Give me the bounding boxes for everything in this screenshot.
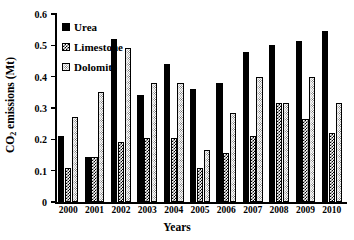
legend-label: Dolomite	[74, 61, 117, 73]
bar-limestone-2002[interactable]	[118, 142, 124, 202]
bar-limestone-2004[interactable]	[171, 138, 177, 202]
legend-item-dolomite[interactable]: Dolomite	[62, 57, 172, 76]
legend-item-urea[interactable]: Urea	[62, 17, 172, 36]
legend-swatch-dolomite-icon	[62, 63, 70, 71]
bar-dolomite-2005[interactable]	[204, 150, 210, 202]
bar-urea-2009[interactable]	[296, 41, 302, 202]
bar-limestone-2000[interactable]	[65, 168, 71, 202]
y-axis-tick-label: 0.2	[35, 134, 48, 145]
y-axis-title: CO2 emissions (Mt)	[0, 0, 20, 210]
bar-dolomite-2003[interactable]	[151, 83, 157, 202]
bar-limestone-2006[interactable]	[223, 153, 229, 202]
x-axis-tick-label: 2009	[296, 205, 315, 215]
bar-urea-2003[interactable]	[137, 95, 143, 202]
bar-dolomite-2000[interactable]	[72, 117, 78, 202]
legend-swatch-urea-icon	[62, 23, 70, 31]
bar-dolomite-2008[interactable]	[283, 103, 289, 202]
legend-swatch-limestone-icon	[62, 43, 70, 51]
chart-legend: UreaLimestoneDolomite	[62, 17, 172, 77]
y-axis-title-suffix: emissions (Mt)	[4, 57, 16, 132]
bar-urea-2001[interactable]	[85, 157, 91, 202]
bar-limestone-2009[interactable]	[302, 119, 308, 202]
x-axis-tick-label: 2002	[111, 205, 130, 215]
y-axis-tick-label: 0.1	[35, 165, 48, 176]
y-axis-tick-label: 0.3	[35, 103, 48, 114]
bar-limestone-2007[interactable]	[250, 136, 256, 202]
bar-urea-2005[interactable]	[190, 89, 196, 202]
bar-group	[319, 14, 345, 202]
bar-urea-2008[interactable]	[269, 45, 275, 202]
x-axis-tick-label: 2004	[164, 205, 183, 215]
bar-dolomite-2007[interactable]	[256, 77, 262, 202]
y-axis-tick-label: 0.6	[35, 9, 48, 20]
bar-limestone-2005[interactable]	[197, 168, 203, 202]
x-axis-tick-label: 2003	[138, 205, 157, 215]
x-axis-tick-label: 2006	[217, 205, 236, 215]
bar-group	[187, 14, 213, 202]
bar-limestone-2010[interactable]	[329, 133, 335, 202]
legend-item-limestone[interactable]: Limestone	[62, 37, 172, 56]
bar-dolomite-2001[interactable]	[98, 92, 104, 202]
bar-group	[292, 14, 318, 202]
bar-group	[266, 14, 292, 202]
y-axis-tick-label: 0.4	[35, 71, 48, 82]
bar-dolomite-2009[interactable]	[309, 77, 315, 202]
bar-limestone-2001[interactable]	[91, 157, 97, 202]
x-axis-tick-label: 2005	[191, 205, 210, 215]
bar-urea-2004[interactable]	[164, 64, 170, 202]
bar-dolomite-2006[interactable]	[230, 113, 236, 202]
y-axis-tick-label: 0.5	[35, 40, 48, 51]
legend-label: Urea	[74, 21, 97, 33]
bar-group	[240, 14, 266, 202]
bar-urea-2000[interactable]	[58, 136, 64, 202]
y-axis-tick-label: 0	[42, 197, 47, 208]
bar-limestone-2003[interactable]	[144, 138, 150, 202]
bar-urea-2007[interactable]	[243, 52, 249, 202]
bar-urea-2010[interactable]	[322, 31, 328, 202]
x-axis-tick-label: 2007	[243, 205, 262, 215]
bar-urea-2006[interactable]	[216, 83, 222, 202]
y-axis-title-subscript: 2	[9, 132, 18, 136]
chart-figure: CO2 emissions (Mt) 00.10.20.30.40.50.6 2…	[0, 0, 354, 240]
x-axis-tick-label: 2001	[85, 205, 104, 215]
bar-dolomite-2010[interactable]	[336, 103, 342, 202]
x-axis-tick-label: 2010	[322, 205, 341, 215]
x-axis-tick-label: 2000	[59, 205, 78, 215]
x-axis-title: Years	[0, 221, 354, 233]
y-axis-title-text: CO2 emissions (Mt)	[4, 57, 16, 153]
bar-limestone-2008[interactable]	[276, 103, 282, 202]
x-axis-tick-label: 2008	[270, 205, 289, 215]
legend-label: Limestone	[74, 41, 123, 53]
bar-group	[213, 14, 239, 202]
bar-dolomite-2004[interactable]	[177, 83, 183, 202]
y-axis-title-prefix: CO	[4, 136, 16, 153]
x-axis-line	[55, 202, 347, 204]
